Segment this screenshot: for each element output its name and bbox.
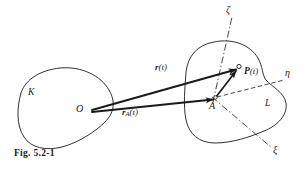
region-l-outline [184,41,286,143]
vector-label-ra: rA(t) [122,108,138,118]
point-marker-p [237,64,241,68]
figure-caption: Fig. 5.2-1 [14,148,55,158]
axis-label-xi: ξ [273,145,277,155]
point-label-a: A [209,101,215,111]
point-label-p-arg: (t) [250,66,259,76]
vector-label-ra-arg: (t) [130,107,139,117]
axis-xi-line [212,97,272,148]
figure-container: K L O A P(t) r(t) rA(t) ζ η ξ Fig. 5.2-1 [0,0,305,171]
region-label-l: L [265,99,270,109]
point-marker-a [214,96,217,99]
point-label-p: P(t) [244,67,258,77]
point-label-o: O [76,104,83,114]
vector-label-r-arg: (t) [159,62,168,72]
axis-label-zeta: ζ [226,5,230,15]
region-label-k: K [28,88,34,98]
figure-drawing [0,0,305,171]
vector-label-r: r(t) [155,63,167,72]
axis-label-eta: η [285,68,290,78]
